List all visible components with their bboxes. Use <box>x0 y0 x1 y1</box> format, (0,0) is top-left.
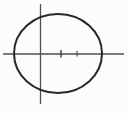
ellipse-axes-diagram <box>0 0 128 113</box>
diagram-background <box>0 0 128 113</box>
diagram-canvas <box>0 0 128 113</box>
